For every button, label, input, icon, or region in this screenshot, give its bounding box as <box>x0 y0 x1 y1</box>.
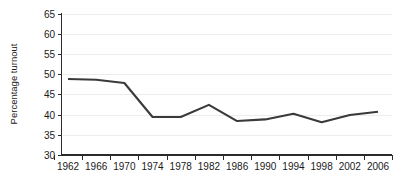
y-tick-label: 30 <box>44 150 56 161</box>
x-tick-label: 1966 <box>85 161 108 172</box>
y-axis-title: Percentage turnout <box>8 43 19 124</box>
y-tick-label: 55 <box>44 49 56 60</box>
x-tick-label: 1962 <box>57 161 80 172</box>
x-tick-label: 1974 <box>141 161 164 172</box>
x-tick-label: 2006 <box>367 161 390 172</box>
x-tick-label: 1970 <box>113 161 136 172</box>
y-tick-label: 35 <box>44 130 56 141</box>
y-tick-label: 50 <box>44 69 56 80</box>
y-tick-label: 40 <box>44 110 56 121</box>
x-tick-label: 1986 <box>226 161 249 172</box>
chart-background <box>0 0 402 186</box>
x-tick-label: 1978 <box>170 161 193 172</box>
y-tick-label: 65 <box>44 9 56 20</box>
turnout-line-chart: 3035404550556065 19621966197019741978198… <box>0 0 402 186</box>
y-tick-label: 45 <box>44 89 56 100</box>
x-tick-label: 2002 <box>339 161 362 172</box>
x-tick-label: 1998 <box>311 161 334 172</box>
x-tick-label: 1990 <box>254 161 277 172</box>
x-tick-label: 1982 <box>198 161 221 172</box>
x-tick-label: 1994 <box>282 161 305 172</box>
y-tick-label: 60 <box>44 29 56 40</box>
chart-canvas: 3035404550556065 19621966197019741978198… <box>0 0 402 186</box>
